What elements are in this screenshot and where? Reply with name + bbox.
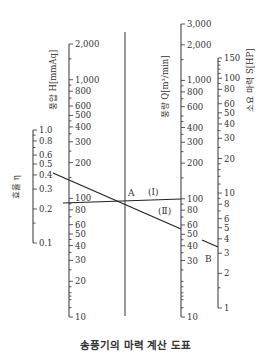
pressure-tick-label: 50 [75,229,86,239]
nomograph: 1.00.80.60.50.40.30.20.12,0001,000800600… [0,0,271,363]
airflow-tick-label: 100 [187,194,203,204]
power-tick-label: 150 [224,53,240,63]
pressure-tick-label: 2,000 [75,39,99,49]
power-tick-label: 8 [224,199,229,209]
power-tick-label: 5 [224,223,229,233]
efficiency-tick-label: 1.0 [39,125,53,135]
efficiency-tick-label: 0.8 [39,136,53,146]
airflow-tick-label: 50 [187,229,198,239]
pressure-tick-label: 80 [75,205,86,215]
pressure-tick-label: 10 [75,312,86,322]
power-tick-label: 10 [224,188,235,198]
airflow-tick-label: 800 [187,87,203,97]
airflow-tick-label: 80 [187,205,198,215]
efficiency-tick-label: 0.3 [39,184,53,194]
airflow-tick-label: 10 [187,312,198,322]
airflow-tick-label: 30 [187,256,198,266]
power-axis-title: 소요 마력 S[HP] [245,49,255,112]
efficiency-tick-label: 0.2 [39,204,53,214]
airflow-tick-label: 600 [187,102,203,112]
airflow-tick-label: 40 [187,241,198,251]
pressure-tick-label: 30 [75,255,86,265]
line-1-label: (Ⅰ) [148,187,159,197]
line-2-extension [202,240,218,247]
airflow-tick-label: 3,000 [187,19,211,29]
power-tick-label: 80 [224,84,235,94]
power-tick-label: 1 [224,303,229,313]
efficiency-tick-label: 0.4 [39,170,53,180]
point-b-label: B [205,254,212,264]
pressure-tick-label: 200 [75,158,91,168]
power-tick-label: 20 [224,154,235,164]
pressure-axis-title: 풍압 H[mmAq] [48,50,58,110]
airflow-tick-label: 2,000 [187,40,211,50]
power-tick-label: 40 [224,119,235,129]
pressure-tick-label: 1,000 [75,75,99,85]
power-tick-label: 100 [224,73,240,83]
efficiency-tick-label: 0.1 [39,238,53,248]
power-tick-label: 50 [224,108,235,118]
airflow-tick-label: 200 [187,158,203,168]
airflow-axis-title: 풍량 Q[m³/min] [160,56,170,119]
point-a-label: A [127,188,135,198]
power-tick-label: 30 [224,133,235,143]
pressure-tick-label: 40 [75,241,86,251]
airflow-tick-label: 300 [187,137,203,147]
power-tick-label: 3 [224,248,229,258]
line-2-label: (Ⅱ) [158,206,171,216]
pressure-tick-label: 20 [75,276,86,286]
pressure-tick-label: 800 [75,86,91,96]
efficiency-axis-title: 효율 η [11,175,21,199]
efficiency-tick-label: 0.5 [39,159,53,169]
airflow-tick-label: 400 [187,123,203,133]
pressure-tick-label: 300 [75,137,91,147]
airflow-tick-label: 1,000 [187,75,211,85]
pressure-tick-label: 500 [75,110,91,120]
power-tick-label: 4 [224,234,229,244]
chart-caption: 송풍기의 마력 계산 도표 [0,337,271,352]
power-tick-label: 2 [224,268,229,278]
pressure-tick-label: 400 [75,122,91,132]
line-2 [53,173,181,229]
